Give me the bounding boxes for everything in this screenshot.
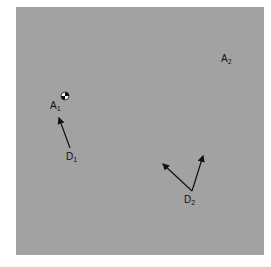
arrows-layer [0, 0, 271, 267]
arrow-d2-left [163, 164, 192, 191]
arrow-d2-right [192, 156, 203, 191]
ball-icon [61, 92, 69, 100]
arrow-d1-to-a1 [59, 118, 70, 148]
